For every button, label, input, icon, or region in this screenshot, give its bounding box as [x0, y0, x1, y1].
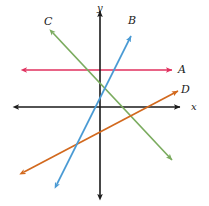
- line-b: [57, 36, 131, 184]
- line-label-b: B: [128, 15, 136, 26]
- line-label-d: D: [181, 84, 190, 95]
- line-c: [53, 33, 172, 160]
- line-d: [24, 91, 178, 172]
- coordinate-plane-figure: y x A B C D: [0, 0, 209, 206]
- x-axis-label: x: [191, 101, 197, 112]
- plot-canvas: [0, 0, 209, 206]
- line-label-c: C: [44, 16, 52, 27]
- y-axis-label: y: [97, 2, 103, 13]
- line-label-a: A: [178, 64, 186, 75]
